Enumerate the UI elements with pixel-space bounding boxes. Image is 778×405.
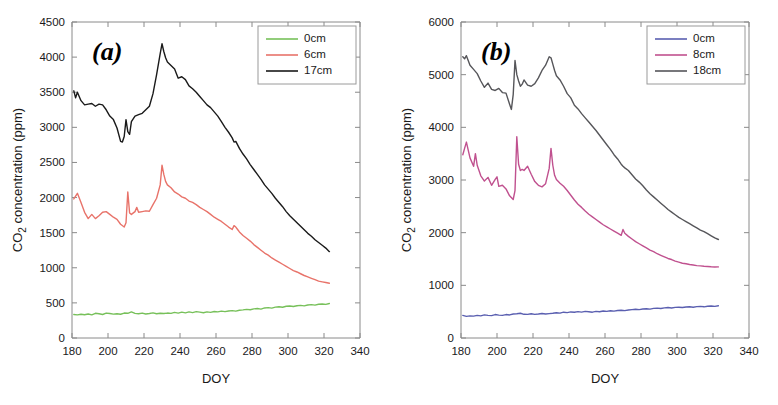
y-axis-tick-label: 3000 (428, 174, 454, 186)
y-axis-tick-label: 0 (59, 332, 65, 344)
x-axis-tick-label: 220 (523, 345, 542, 357)
x-axis-tick-label: 280 (631, 345, 650, 357)
y-axis-tick-label: 3500 (39, 86, 65, 98)
x-axis-tick-label: 300 (278, 345, 297, 357)
x-axis-tick-label: 220 (134, 345, 153, 357)
chart-panel-a: 0500100015002000250030003500400045001802… (0, 0, 389, 405)
x-axis-tick-label: 240 (170, 345, 189, 357)
chart-svg: 0500100015002000250030003500400045001802… (0, 0, 389, 405)
legend-label-17cm: 17cm (304, 64, 332, 76)
svg-text:CO2 concentration (ppm): CO2 concentration (ppm) (399, 108, 417, 252)
y-axis-tick-label: 2000 (39, 192, 65, 204)
panel-label: (a) (92, 37, 122, 66)
y-axis-title: CO2 concentration (ppm) (399, 108, 417, 252)
panel-label: (b) (481, 37, 511, 66)
y-axis-tick-label: 4000 (39, 51, 65, 63)
x-axis-tick-label: 280 (242, 345, 261, 357)
x-axis-tick-label: 260 (595, 345, 614, 357)
chart-panel-b: 0100020003000400050006000180200220240260… (389, 0, 778, 405)
series-line-0cm (463, 306, 719, 317)
y-axis-tick-label: 3000 (39, 121, 65, 133)
legend-label-6cm: 6cm (304, 48, 326, 60)
y-axis-tick-label: 6000 (428, 16, 454, 28)
x-axis-tick-label: 200 (98, 345, 117, 357)
series-line-8cm (463, 137, 719, 267)
x-axis-tick-label: 200 (487, 345, 506, 357)
x-axis-tick-label: 260 (206, 345, 225, 357)
x-axis-tick-label: 180 (62, 345, 81, 357)
x-axis-title: DOY (591, 371, 620, 386)
y-axis-tick-label: 5000 (428, 69, 454, 81)
y-axis-tick-label: 1000 (39, 262, 65, 274)
svg-text:CO2 concentration (ppm): CO2 concentration (ppm) (10, 108, 28, 252)
y-axis-tick-label: 2500 (39, 156, 65, 168)
y-axis-title: CO2 concentration (ppm) (10, 108, 28, 252)
y-axis-tick-label: 500 (46, 297, 65, 309)
x-axis-tick-label: 320 (703, 345, 722, 357)
y-axis-tick-label: 0 (448, 332, 454, 344)
legend-label-0cm: 0cm (304, 32, 326, 44)
series-line-0cm (74, 303, 330, 314)
legend-label-0cm: 0cm (693, 32, 715, 44)
x-axis-tick-label: 240 (559, 345, 578, 357)
y-axis-tick-label: 1500 (39, 227, 65, 239)
x-axis-tick-label: 320 (314, 345, 333, 357)
series-line-6cm (74, 165, 330, 283)
y-axis-tick-label: 4000 (428, 121, 454, 133)
x-axis-tick-label: 300 (667, 345, 686, 357)
y-axis-tick-label: 4500 (39, 16, 65, 28)
y-axis-tick-label: 2000 (428, 227, 454, 239)
y-axis-tick-label: 1000 (428, 279, 454, 291)
x-axis-tick-label: 180 (451, 345, 470, 357)
chart-svg: 0100020003000400050006000180200220240260… (389, 0, 778, 405)
x-axis-tick-label: 340 (739, 345, 758, 357)
figure-container: 0500100015002000250030003500400045001802… (0, 0, 778, 405)
legend-label-18cm: 18cm (693, 64, 721, 76)
x-axis-title: DOY (202, 371, 231, 386)
x-axis-tick-label: 340 (350, 345, 369, 357)
legend-label-8cm: 8cm (693, 48, 715, 60)
